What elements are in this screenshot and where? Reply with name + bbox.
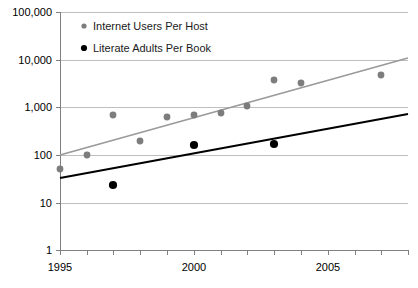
legend-label-literate-adults-per-book: Literate Adults Per Book [93,42,212,54]
data-point [57,166,64,173]
y-axis-label-1: 1 [46,244,52,256]
legend-marker-internet-users-per-host [81,23,86,28]
data-point [164,114,171,121]
x-axis-label-2005: 2005 [316,261,340,273]
data-point [110,112,117,119]
data-point [244,103,251,110]
legend-label-internet-users-per-host: Internet Users Per Host [93,20,208,32]
data-point [218,110,225,117]
y-axis-label-10000: 10,000 [18,54,52,66]
y-axis-label-100000: 100,000 [12,6,52,18]
x-axis-label-1995: 1995 [48,261,72,273]
data-point [190,141,198,149]
y-axis-label-10: 10 [40,197,52,209]
legend-marker-literate-adults-per-book [81,45,87,51]
data-point [271,77,278,84]
y-axis-label-1000: 1,000 [24,101,52,113]
y-axis-label-100: 100 [34,149,52,161]
data-point [270,140,278,148]
log-scatter-chart: 100,000 10,000 1,000 100 10 1 1995 2000 … [0,0,418,288]
data-point [378,72,385,79]
data-point [109,181,117,189]
data-point [298,80,305,87]
x-axis-label-2000: 2000 [182,261,206,273]
data-point [191,112,198,119]
chart-container: 100,000 10,000 1,000 100 10 1 1995 2000 … [0,0,418,288]
data-point [137,138,144,145]
data-point [84,152,91,159]
